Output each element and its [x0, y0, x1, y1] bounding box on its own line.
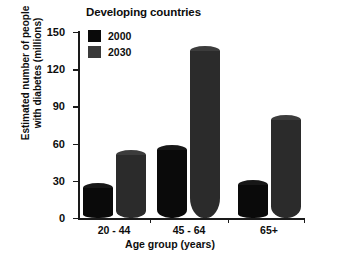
legend-item-2000[interactable]: 2000 [88, 28, 131, 44]
y-tick-label-0: 0 [59, 212, 65, 224]
chart-figure: Developing countries Estimated number of… [0, 0, 340, 263]
legend-item-2030[interactable]: 2030 [88, 44, 131, 60]
y-tick-0: 0 [73, 218, 78, 219]
chart-title: Developing countries [86, 6, 201, 18]
x-axis-spine [78, 218, 305, 220]
bar-2000-65-plus[interactable] [238, 180, 268, 218]
bar-body [190, 51, 220, 218]
x-tick-end [304, 218, 305, 223]
x-tick-separator-2 [228, 218, 229, 223]
bar-body [83, 188, 113, 218]
y-tick-label-60: 60 [53, 138, 65, 150]
y-tick-90: 90 [73, 106, 78, 107]
legend: 2000 2030 [88, 28, 131, 60]
y-axis-label-line-1: Estimated number of people [20, 6, 33, 140]
bar-2030-45-64[interactable] [190, 46, 220, 218]
bar-2030-65-plus[interactable] [271, 115, 301, 218]
y-axis-label: Estimated number of people with diabetes… [15, 0, 49, 168]
bar-body [116, 155, 146, 218]
y-axis-spine [78, 31, 80, 219]
legend-swatch-2000 [88, 30, 101, 42]
y-tick-label-90: 90 [53, 100, 65, 112]
bar-2000-45-64[interactable] [157, 145, 187, 218]
bar-body [238, 185, 268, 218]
x-tick-label-45-64: 45 - 64 [173, 224, 206, 236]
y-tick-label-150: 150 [47, 26, 65, 38]
bar-2030-20-44[interactable] [116, 150, 146, 218]
y-axis-label-line-2: with diabetes (millions) [32, 18, 45, 129]
y-tick-30: 30 [73, 181, 78, 182]
x-tick-label-65-plus: 65+ [260, 224, 278, 236]
y-tick-label-30: 30 [53, 175, 65, 187]
legend-label-2000: 2000 [108, 30, 131, 42]
bar-2000-20-44[interactable] [83, 183, 113, 218]
legend-label-2030: 2030 [108, 46, 131, 58]
bar-body [271, 120, 301, 218]
legend-swatch-2030 [88, 46, 101, 58]
y-tick-150: 150 [73, 32, 78, 33]
y-tick-label-120: 120 [47, 63, 65, 75]
bar-body [157, 150, 187, 218]
x-axis-label: Age group (years) [0, 238, 340, 250]
y-tick-120: 120 [73, 69, 78, 70]
x-tick-separator-1 [150, 218, 151, 223]
x-tick-label-20-44: 20 - 44 [98, 224, 131, 236]
y-tick-60: 60 [73, 144, 78, 145]
